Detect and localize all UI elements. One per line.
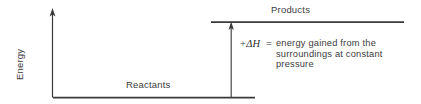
description-line-1: energy gained from the	[276, 38, 418, 49]
description-line-2: surroundings at constant	[276, 49, 418, 60]
enthalpy-h-glyph: H	[253, 38, 261, 49]
reactants-level-label: Reactants	[126, 79, 171, 90]
description-line-3: pressure	[276, 59, 418, 70]
energy-level-diagram: Energy Products Reactants +ΔH = energy g…	[0, 0, 421, 104]
products-level-label: Products	[271, 4, 310, 15]
enthalpy-description: energy gained from the surroundings at c…	[276, 38, 418, 70]
enthalpy-symbol: +ΔH	[240, 38, 260, 49]
y-axis-label: Energy	[14, 49, 25, 80]
equals-sign: =	[266, 38, 272, 49]
